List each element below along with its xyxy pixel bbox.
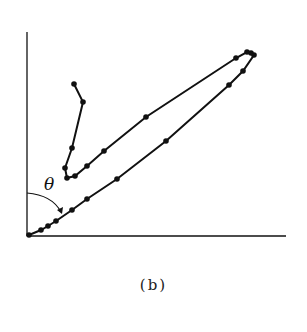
data-point [69, 207, 75, 213]
data-point [84, 196, 90, 202]
data-point [226, 82, 232, 88]
data-point [71, 81, 77, 87]
data-point [72, 173, 78, 179]
data-point [84, 163, 90, 169]
data-point [114, 176, 120, 182]
data-point [80, 99, 86, 105]
data-point [26, 232, 32, 238]
data-point [101, 148, 107, 154]
data-point [69, 145, 75, 151]
data-point [45, 223, 51, 229]
data-point [143, 114, 149, 120]
data-point [53, 218, 59, 224]
angle-label: θ [44, 174, 54, 194]
data-point [163, 138, 169, 144]
angle-arc [27, 193, 61, 212]
data-point [62, 165, 68, 171]
figure-caption: (b) [0, 276, 307, 294]
data-point [240, 68, 246, 74]
data-point [233, 55, 239, 61]
data-point [64, 175, 70, 181]
data-point [38, 227, 44, 233]
data-point [244, 49, 250, 55]
